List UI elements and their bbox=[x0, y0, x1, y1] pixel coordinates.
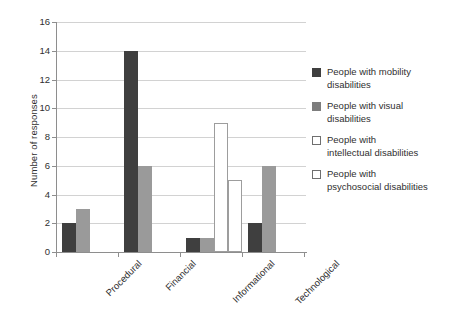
legend-item: People withpsychosocial disabilities bbox=[312, 168, 452, 193]
x-tick-mark bbox=[180, 253, 181, 257]
bar bbox=[124, 51, 138, 252]
bar bbox=[76, 209, 90, 252]
legend-label-line2: disabilities bbox=[327, 79, 452, 92]
bar bbox=[214, 123, 228, 252]
legend: People with mobilitydisabilitiesPeople w… bbox=[312, 66, 452, 202]
legend-item: People with visualdisabilities bbox=[312, 100, 452, 125]
x-axis-line bbox=[56, 252, 307, 253]
bar bbox=[186, 238, 200, 252]
legend-label-line2: disabilities bbox=[327, 113, 452, 126]
y-tick-label: 0 bbox=[26, 247, 50, 257]
y-tick-mark bbox=[52, 80, 56, 81]
x-axis-label: Financial bbox=[163, 258, 198, 293]
y-tick-label: 4 bbox=[26, 190, 50, 200]
y-tick-mark bbox=[52, 137, 56, 138]
x-tick-mark bbox=[118, 253, 119, 257]
white-swatch-icon bbox=[312, 170, 321, 179]
gridline bbox=[57, 80, 306, 81]
y-tick-mark bbox=[52, 22, 56, 23]
bar bbox=[228, 180, 242, 252]
y-tick-mark bbox=[52, 108, 56, 109]
gray-swatch-icon bbox=[312, 102, 321, 111]
legend-label-line2: intellectual disabilities bbox=[327, 147, 452, 160]
x-tick-mark bbox=[304, 253, 305, 257]
dark-swatch-icon bbox=[312, 68, 321, 77]
legend-item: People with mobilitydisabilities bbox=[312, 66, 452, 91]
bar-chart: Number of responses 0246810121416 Proced… bbox=[0, 0, 454, 328]
y-tick-mark bbox=[52, 195, 56, 196]
x-axis-label: Technological bbox=[293, 258, 341, 306]
y-tick-label: 12 bbox=[26, 75, 50, 85]
legend-label-line1: People with visual bbox=[327, 100, 452, 113]
y-tick-label: 2 bbox=[26, 218, 50, 228]
x-axis-label: Procedural bbox=[103, 258, 143, 298]
legend-label-line1: People with bbox=[327, 168, 452, 181]
y-tick-mark bbox=[52, 166, 56, 167]
y-tick-mark bbox=[52, 223, 56, 224]
bar bbox=[262, 166, 276, 252]
white-swatch-icon bbox=[312, 136, 321, 145]
bar bbox=[200, 238, 214, 252]
legend-label-line1: People with mobility bbox=[327, 66, 452, 79]
gridline bbox=[57, 108, 306, 109]
bar bbox=[248, 223, 262, 252]
gridline bbox=[57, 51, 306, 52]
x-tick-mark bbox=[56, 253, 57, 257]
legend-label-line2: psychosocial disabilities bbox=[327, 181, 452, 194]
y-tick-label: 8 bbox=[26, 132, 50, 142]
legend-label-line1: People with bbox=[327, 134, 452, 147]
y-tick-label: 14 bbox=[26, 46, 50, 56]
x-tick-mark bbox=[242, 253, 243, 257]
y-tick-label: 6 bbox=[26, 161, 50, 171]
x-axis-label: Informational bbox=[230, 258, 277, 305]
plot-area: 0246810121416 bbox=[56, 22, 306, 252]
bar bbox=[62, 223, 76, 252]
gridline bbox=[57, 22, 306, 23]
y-tick-mark bbox=[52, 51, 56, 52]
y-tick-label: 10 bbox=[26, 103, 50, 113]
legend-item: People withintellectual disabilities bbox=[312, 134, 452, 159]
gridline bbox=[57, 137, 306, 138]
bar bbox=[138, 166, 152, 252]
y-tick-label: 16 bbox=[26, 17, 50, 27]
